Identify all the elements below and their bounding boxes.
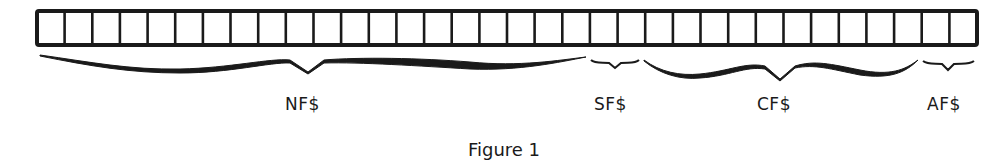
sf-label: SF$ xyxy=(594,94,627,114)
cf-label: CF$ xyxy=(757,94,791,114)
sf-brace xyxy=(591,60,639,68)
figure-caption: Figure 1 xyxy=(0,139,1008,160)
af-brace xyxy=(923,61,974,70)
nf-label: NF$ xyxy=(285,94,320,114)
nf-brace xyxy=(40,55,586,74)
memory-layout-figure: NF$ SF$ CF$ AF$ Figure 1 xyxy=(0,0,1008,167)
af-label: AF$ xyxy=(927,94,961,114)
cell-dividers xyxy=(65,12,950,44)
cf-brace xyxy=(644,60,918,81)
